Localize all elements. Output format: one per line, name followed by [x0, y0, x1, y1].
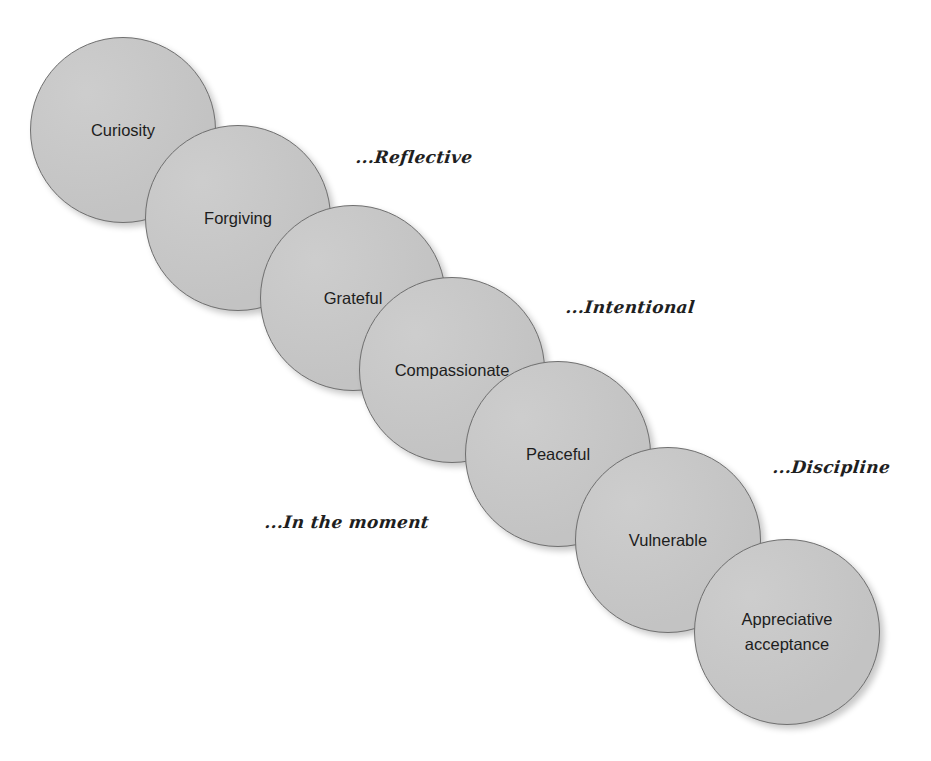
circle-label: Grateful — [324, 286, 383, 311]
circle-appreciative-acceptance: Appreciative acceptance — [694, 539, 880, 725]
annotation-intentional: ...Intentional — [565, 297, 696, 317]
circle-label: Forgiving — [204, 206, 272, 231]
diagram-canvas: Curiosity Forgiving Grateful Compassiona… — [0, 0, 931, 761]
circle-label: Compassionate — [395, 358, 510, 383]
circle-label: Curiosity — [91, 118, 155, 143]
circle-label: Appreciative acceptance — [742, 607, 833, 657]
circle-label: Peaceful — [526, 442, 590, 467]
annotation-discipline: ...Discipline — [772, 457, 891, 477]
circle-label: Vulnerable — [629, 528, 707, 553]
annotation-reflective: ...Reflective — [355, 147, 474, 167]
annotation-in-the-moment: ...In the moment — [264, 512, 430, 532]
